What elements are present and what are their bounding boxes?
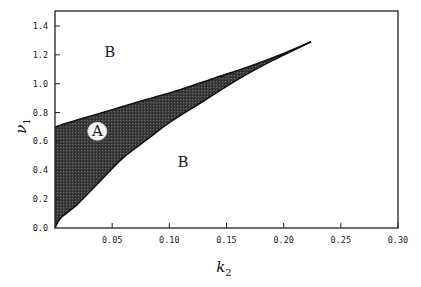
region-label-b: B [178,153,189,171]
y-tick-label: 1.2 [33,50,48,60]
x-tick-label: 0.05 [102,235,122,245]
x-tick-label: 0.15 [216,235,236,245]
y-tick-label: 0.0 [33,223,48,233]
phase-diagram-chart: 0.050.100.150.200.250.30 0.00.20.40.60.8… [0,0,421,287]
x-tick-label: 0.10 [159,235,179,245]
y-tick-label: 0.4 [33,165,48,175]
y-tick-label: 0.2 [33,194,48,204]
y-tick-label: 1.4 [33,21,48,31]
y-axis-title: ν1 [12,118,32,134]
x-axis-ticks: 0.050.100.150.200.250.30 [102,223,408,245]
x-axis-title: k2 [216,258,231,278]
y-tick-label: 1.0 [33,79,48,89]
y-tick-label: 0.8 [33,108,48,118]
x-tick-label: 0.20 [273,235,293,245]
region-label-b: B [104,43,115,61]
x-tick-label: 0.30 [388,235,408,245]
region-label-a: A [91,122,103,140]
y-tick-label: 0.6 [33,136,48,146]
x-tick-label: 0.25 [331,235,351,245]
